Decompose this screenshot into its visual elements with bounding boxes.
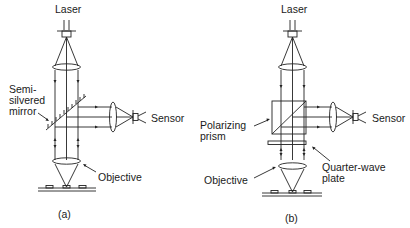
panel-a-graphics [38,20,146,191]
panel-a-caption: (a) [58,208,71,220]
panel-a-mirror-label: Semi- silvered mirror [9,84,45,117]
optical-pickup-diagram: Laser Semi- silvered mirror Sensor Objec… [0,0,410,228]
diagram-graphics [0,0,410,228]
panel-b-quarter-wave-label: Quarter-wave plate [322,162,386,184]
panel-a-laser-label: Laser [55,4,81,15]
panel-a-objective-label: Objective [98,172,142,183]
panel-b-objective-label: Objective [204,175,248,186]
panel-b-prism-label: Polarizing prism [200,120,246,142]
panel-b-caption: (b) [285,212,298,224]
panel-b-laser-label: Laser [281,4,307,15]
panel-a-sensor-label: Sensor [151,113,184,124]
panel-b-sensor-label: Sensor [372,113,405,124]
